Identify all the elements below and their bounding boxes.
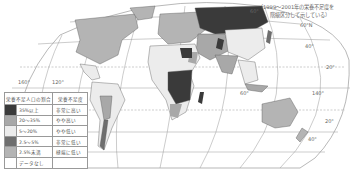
legend-swatch bbox=[5, 147, 17, 158]
legend-swatch bbox=[5, 105, 17, 116]
legend-level: やや低い bbox=[53, 126, 88, 137]
lat-label-60n: 60°N bbox=[300, 22, 313, 28]
lat-label-20: 20° bbox=[326, 64, 335, 70]
legend-header-ratio: 栄養不足人口の割合 bbox=[5, 93, 53, 105]
legend-row: 20～35% やや高い bbox=[5, 115, 88, 126]
legend: 栄養不足人口の割合 栄養不足度 35%以上 非常に高い 20～35% やや高い … bbox=[4, 92, 88, 169]
legend-level: 極端に低い bbox=[53, 147, 88, 158]
legend-row: 2.5～5% 非常に低い bbox=[5, 136, 88, 147]
legend-level: 非常に高い bbox=[53, 105, 88, 116]
legend-swatch bbox=[5, 126, 17, 137]
lon-label-160: 160° bbox=[18, 79, 30, 85]
legend-row: 35%以上 非常に高い bbox=[5, 105, 88, 116]
top-label-60: 60° bbox=[250, 8, 259, 14]
legend-row: データなし bbox=[5, 157, 88, 168]
lat-label-40s: 40° bbox=[308, 136, 317, 142]
map-caption: （1999～2001年の栄養不足度を 階級区分して示している） bbox=[258, 3, 350, 19]
legend-swatch bbox=[5, 115, 17, 126]
legend-swatch bbox=[5, 136, 17, 147]
legend-ratio: 2.5～5% bbox=[17, 136, 53, 147]
lon-label-60e: 60° bbox=[240, 90, 249, 96]
legend-row: 2.5%未満 極端に低い bbox=[5, 147, 88, 158]
legend-ratio: 35%以上 bbox=[17, 105, 53, 116]
legend-level: 非常に低い bbox=[53, 136, 88, 147]
caption-line-2: 階級区分して示している） bbox=[258, 11, 350, 19]
legend-ratio: データなし bbox=[17, 157, 53, 168]
caption-line-1: （1999～2001年の栄養不足度を bbox=[258, 3, 350, 11]
lon-label-140e: 140° bbox=[312, 90, 324, 96]
lon-label-120: 120° bbox=[52, 79, 64, 85]
legend-level bbox=[53, 157, 88, 168]
legend-swatch bbox=[5, 157, 17, 168]
legend-level: やや高い bbox=[53, 115, 88, 126]
lat-label-40: 40° bbox=[305, 43, 314, 49]
legend-ratio: 2.5%未満 bbox=[17, 147, 53, 158]
legend-ratio: 5～20% bbox=[17, 126, 53, 137]
legend-header-level: 栄養不足度 bbox=[53, 93, 88, 105]
legend-row: 5～20% やや低い bbox=[5, 126, 88, 137]
lat-label-20s: 20° bbox=[325, 118, 334, 124]
legend-ratio: 20～35% bbox=[17, 115, 53, 126]
